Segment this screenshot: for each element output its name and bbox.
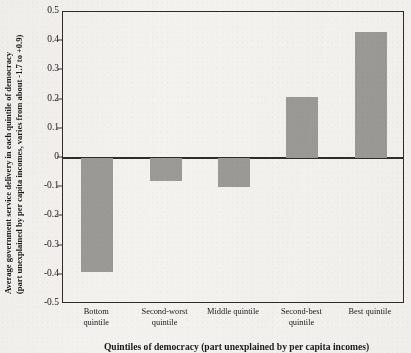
y-axis-tick-mark bbox=[57, 244, 62, 245]
y-axis-tick-label: -0.4 bbox=[33, 269, 59, 279]
y-axis-tick-mark bbox=[57, 215, 62, 216]
x-axis-title: Quintiles of democracy (part unexplained… bbox=[62, 341, 411, 353]
y-axis-tick-label: 0.5 bbox=[33, 6, 59, 16]
x-axis-category-labels: Bottom quintileSecond-worst quintileMidd… bbox=[62, 307, 404, 335]
y-axis-tick-label: -0.3 bbox=[33, 240, 59, 250]
y-axis-tick-label: -0.2 bbox=[33, 211, 59, 221]
y-axis-title: Average government service delivery in e… bbox=[0, 0, 32, 310]
bar bbox=[81, 158, 113, 272]
y-axis-tick-label: 0 bbox=[33, 152, 59, 162]
y-axis-tick-label: 0.1 bbox=[33, 123, 59, 133]
plot-area bbox=[62, 11, 404, 303]
bar bbox=[286, 97, 318, 158]
bar-chart-figure: Average government service delivery in e… bbox=[0, 0, 411, 353]
y-axis-tick-label: -0.1 bbox=[33, 181, 59, 191]
bar bbox=[218, 158, 250, 187]
y-axis-tick-mark bbox=[57, 69, 62, 70]
y-axis-tick-mark bbox=[57, 127, 62, 128]
y-axis-tick-mark bbox=[57, 98, 62, 99]
y-axis-tick-mark bbox=[57, 273, 62, 274]
y-axis-tick-labels: 0.50.40.30.20.10-0.1-0.2-0.3-0.4-0.5 bbox=[31, 0, 59, 353]
y-axis-tick-label: 0.4 bbox=[33, 35, 59, 45]
x-axis-category-label: Middle quintile bbox=[199, 307, 267, 335]
bar bbox=[150, 158, 182, 181]
x-axis-category-label: Bottom quintile bbox=[62, 307, 130, 335]
y-axis-tick-label: -0.5 bbox=[33, 298, 59, 308]
y-axis-title-line-2: (part unexplained by per capita incomes,… bbox=[0, 0, 24, 300]
y-axis-tick-mark bbox=[57, 186, 62, 187]
y-axis-tick-mark bbox=[57, 157, 62, 158]
bar bbox=[355, 32, 387, 158]
x-axis-category-label: Best quintile bbox=[336, 307, 404, 335]
x-axis-category-label: Second-best quintile bbox=[267, 307, 335, 335]
y-axis-tick-mark bbox=[57, 40, 62, 41]
y-axis-tick-label: 0.3 bbox=[33, 65, 59, 75]
y-axis-tick-label: 0.2 bbox=[33, 94, 59, 104]
x-axis-category-label: Second-worst quintile bbox=[130, 307, 198, 335]
